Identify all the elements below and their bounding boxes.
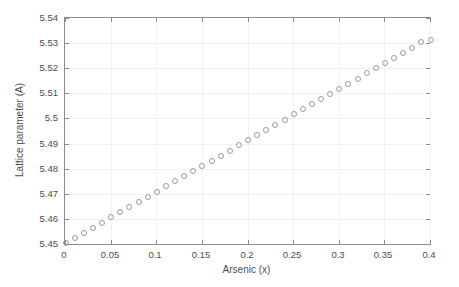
data-point-marker	[345, 81, 351, 87]
x-axis-tick-top	[111, 18, 112, 22]
x-axis-tick-label: 0.2	[240, 249, 253, 260]
y-axis-tick-right	[426, 244, 430, 245]
data-point-marker	[236, 142, 242, 148]
x-axis-tick	[248, 240, 249, 244]
y-axis-tick-label: 5.45	[40, 238, 59, 249]
data-point-marker	[272, 122, 278, 128]
data-point-marker	[391, 55, 397, 61]
data-point-marker	[309, 101, 315, 107]
x-axis-tick-label: 0.15	[192, 249, 211, 260]
y-axis-tick-label: 5.48	[40, 163, 59, 174]
data-point-marker	[355, 76, 361, 82]
data-point-marker	[382, 60, 388, 66]
x-axis-tick	[293, 240, 294, 244]
y-axis-tick-label: 5.53	[40, 37, 59, 48]
y-axis-tick-right	[426, 93, 430, 94]
figure-canvas: Lattice parameter (A) Arsenic (x) 00.050…	[0, 0, 459, 287]
plot-area	[64, 17, 431, 245]
data-point-marker	[418, 39, 424, 45]
x-axis-tick-label: 0.05	[101, 249, 120, 260]
x-axis-tick-label: 0.25	[283, 249, 302, 260]
data-point-marker	[145, 194, 151, 200]
y-axis-tick	[65, 169, 69, 170]
y-axis-tick-label: 5.47	[40, 188, 59, 199]
y-axis-tick	[65, 43, 69, 44]
x-axis-tick	[384, 240, 385, 244]
y-axis-tick	[65, 68, 69, 69]
gridline-vertical	[430, 18, 431, 244]
y-axis-tick-right	[426, 144, 430, 145]
x-axis-tick	[339, 240, 340, 244]
y-axis-tick-label: 5.52	[40, 62, 59, 73]
data-point-marker	[409, 45, 415, 51]
data-point-marker	[300, 106, 306, 112]
x-axis-tick-top	[202, 18, 203, 22]
y-axis-tick-right	[426, 68, 430, 69]
data-point-marker	[318, 96, 324, 102]
data-point-marker	[181, 173, 187, 179]
y-axis-tick	[65, 244, 69, 245]
data-point-marker	[373, 65, 379, 71]
data-point-marker	[154, 189, 160, 195]
data-point-marker	[400, 50, 406, 56]
data-point-marker	[81, 230, 87, 236]
data-point-marker	[108, 214, 114, 220]
data-point-marker	[428, 37, 434, 43]
x-axis-tick-label: 0	[61, 249, 66, 260]
x-axis-tick	[202, 240, 203, 244]
data-point-marker	[126, 204, 132, 210]
y-axis-tick	[65, 144, 69, 145]
y-axis-tick-right	[426, 18, 430, 19]
x-axis-tick-label: 0.1	[148, 249, 161, 260]
y-axis-title: Lattice parameter (A)	[14, 17, 28, 243]
data-point-marker	[254, 132, 260, 138]
y-axis-tick-label: 5.51	[40, 87, 59, 98]
x-axis-tick-top	[339, 18, 340, 22]
data-point-marker	[163, 183, 169, 189]
y-axis-tick-label: 5.49	[40, 138, 59, 149]
data-point-marker	[99, 220, 105, 226]
data-point-marker	[136, 199, 142, 205]
data-point-marker	[327, 91, 333, 97]
data-point-marker	[245, 137, 251, 143]
data-point-marker	[199, 163, 205, 169]
x-axis-tick-label: 0.35	[374, 249, 393, 260]
data-point-marker	[90, 225, 96, 231]
y-axis-tick	[65, 93, 69, 94]
data-point-marker	[291, 111, 297, 117]
y-axis-tick-right	[426, 43, 430, 44]
y-axis-tick-label: 5.46	[40, 213, 59, 224]
data-point-marker	[263, 127, 269, 133]
data-point-marker	[172, 178, 178, 184]
x-axis-tick	[111, 240, 112, 244]
x-axis-tick-label: 0.4	[422, 249, 435, 260]
y-axis-tick	[65, 194, 69, 195]
x-axis-tick-top	[384, 18, 385, 22]
x-axis-tick-top	[430, 18, 431, 22]
data-point-marker	[209, 158, 215, 164]
data-point-marker	[72, 235, 78, 241]
y-axis-tick-label: 5.54	[40, 12, 59, 23]
y-axis-tick-label: 5.5	[45, 112, 58, 123]
y-axis-tick-right	[426, 219, 430, 220]
y-axis-tick-right	[426, 194, 430, 195]
y-axis-tick	[65, 118, 69, 119]
x-axis-tick-top	[156, 18, 157, 22]
data-point-marker	[364, 70, 370, 76]
x-axis-tick-top	[293, 18, 294, 22]
data-point-marker	[117, 209, 123, 215]
y-axis-tick	[65, 18, 69, 19]
x-axis-title: Arsenic (x)	[64, 264, 429, 275]
y-axis-tick-right	[426, 169, 430, 170]
x-axis-tick	[156, 240, 157, 244]
y-axis-tick	[65, 219, 69, 220]
x-axis-tick	[430, 240, 431, 244]
y-axis-tick-right	[426, 118, 430, 119]
x-axis-tick-label: 0.3	[331, 249, 344, 260]
data-point-marker	[282, 117, 288, 123]
data-point-marker	[227, 148, 233, 154]
data-point-marker	[336, 86, 342, 92]
x-axis-tick-top	[248, 18, 249, 22]
data-point-marker	[218, 153, 224, 159]
data-series-layer	[65, 18, 430, 244]
